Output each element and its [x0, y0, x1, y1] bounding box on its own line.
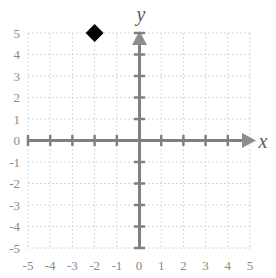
y-axis-label: y: [135, 3, 146, 26]
x-tick-label-1: 1: [158, 258, 165, 273]
x-tick-label-4: 4: [225, 258, 232, 273]
x-tick-label--4: -4: [45, 258, 56, 273]
x-axis-label: x: [258, 130, 268, 152]
x-tick-labels: -5 -4 -3 -2 -1 0 1 2 3 4 5: [23, 258, 254, 273]
y-tick-label-1: 1: [14, 112, 21, 127]
x-tick-label-3: 3: [202, 258, 209, 273]
x-tick-label--2: -2: [89, 258, 100, 273]
y-tick-label--2: -2: [9, 176, 20, 191]
y-tick-label-4: 4: [14, 47, 21, 62]
y-tick-label-0: 0: [14, 133, 21, 148]
y-tick-label-5: 5: [14, 26, 21, 41]
diamond-point-marker: [86, 24, 104, 42]
y-tick-label--5: -5: [9, 241, 20, 256]
x-tick-label-5: 5: [247, 258, 254, 273]
y-tick-label-3: 3: [14, 69, 21, 84]
y-tick-label--3: -3: [9, 198, 20, 213]
x-tick-label--3: -3: [67, 258, 78, 273]
x-tick-label--5: -5: [23, 258, 34, 273]
x-axis: [28, 133, 256, 148]
y-tick-label-2: 2: [14, 90, 21, 105]
data-point-group: [86, 24, 104, 42]
y-tick-label--4: -4: [9, 219, 20, 234]
coordinate-plane-graph: 5 4 3 2 1 0 -1 -2 -3 -4 -5 -5 -4 -3 -2 -…: [0, 0, 276, 278]
y-tick-labels: 5 4 3 2 1 0 -1 -2 -3 -4 -5: [9, 26, 20, 256]
y-tick-label--1: -1: [9, 155, 20, 170]
x-tick-label-2: 2: [180, 258, 187, 273]
arrow-right-icon: [242, 133, 256, 148]
x-tick-label-0: 0: [136, 258, 143, 273]
x-tick-label--1: -1: [111, 258, 122, 273]
graph-canvas: 5 4 3 2 1 0 -1 -2 -3 -4 -5 -5 -4 -3 -2 -…: [0, 0, 276, 278]
